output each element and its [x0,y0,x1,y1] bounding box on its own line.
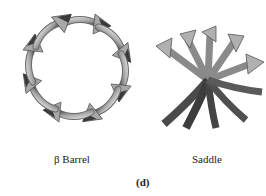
saddle-label: Saddle [192,153,222,165]
saddle-illustration [150,20,266,130]
beta-barrel-illustration [14,4,140,132]
saddle-ribbon-icon [150,20,266,130]
beta-barrel-ribbon-icon [14,4,140,132]
panel-label: (d) [136,176,149,188]
beta-barrel-label: β Barrel [54,153,90,165]
